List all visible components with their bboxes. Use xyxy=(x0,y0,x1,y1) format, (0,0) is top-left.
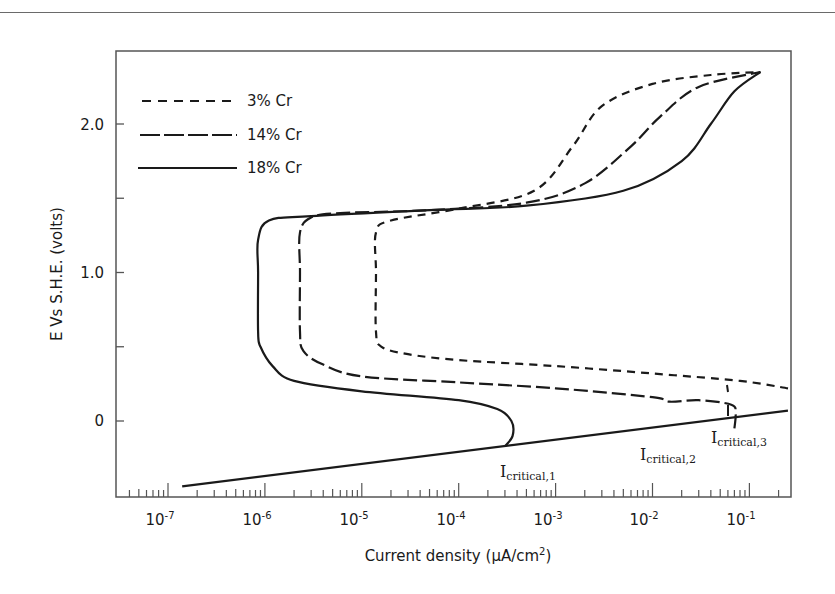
legend-item-18-cr: 18% Cr xyxy=(138,159,303,177)
x-tick-label-1e-1: 10-1 xyxy=(726,510,755,529)
x-axis-ticks xyxy=(129,483,778,497)
x-tick-label-1e-6: 10-6 xyxy=(242,510,271,529)
series-14-cr xyxy=(299,72,760,428)
legend-label: 3% Cr xyxy=(247,92,293,110)
critical-3-marker xyxy=(727,385,728,416)
x-tick-labels: 10-7 10-6 10-5 10-4 10-3 10-2 10-1 xyxy=(145,510,755,529)
legend-label: 18% Cr xyxy=(247,159,303,177)
x-axis-title: Current density (μA/cm2) xyxy=(365,546,552,565)
legend-label: 14% Cr xyxy=(247,126,303,144)
legend-item-14-cr: 14% Cr xyxy=(140,126,303,144)
legend: 3% Cr 14% Cr 18% Cr xyxy=(138,92,303,177)
x-tick-label-1e-5: 10-5 xyxy=(339,510,368,529)
x-tick-label-1e-4: 10-4 xyxy=(436,510,465,529)
x-tick-label-1e-2: 10-2 xyxy=(629,510,658,529)
x-tick-label-1e-7: 10-7 xyxy=(145,510,174,529)
annotation-i-critical-1: Icritical,1 xyxy=(500,462,556,483)
polarization-chart: 0 1.0 2.0 10-7 10-6 10-5 10-4 10-3 10-2 … xyxy=(0,0,835,594)
x-tick-label-1e-3: 10-3 xyxy=(533,510,562,529)
y-axis-ticks xyxy=(116,124,124,421)
series-3-cr xyxy=(375,72,788,388)
y-tick-label-0: 0 xyxy=(94,412,104,430)
annotation-i-critical-3: Icritical,3 xyxy=(711,428,767,449)
cathodic-line xyxy=(182,411,788,487)
annotation-i-critical-2: Icritical,2 xyxy=(640,445,696,466)
legend-item-3-cr: 3% Cr xyxy=(142,92,293,110)
y-axis-title: E Vs S.H.E. (volts) xyxy=(48,207,66,341)
plot-frame xyxy=(116,51,791,497)
y-tick-label-2: 2.0 xyxy=(80,116,104,134)
y-tick-label-1: 1.0 xyxy=(80,264,104,282)
series-18-cr xyxy=(257,72,760,446)
